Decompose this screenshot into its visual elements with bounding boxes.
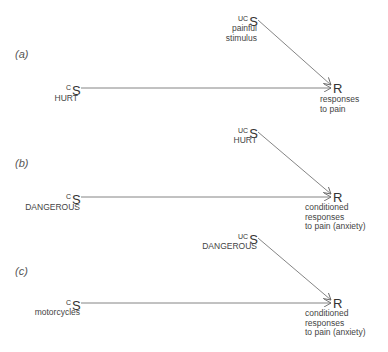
panel-label-a: (a) xyxy=(15,48,28,60)
ucs-caption-a: painful stimulus xyxy=(226,24,257,43)
ucs-prefix: UC xyxy=(238,233,248,240)
cs-prefix: C xyxy=(66,193,71,200)
ucs-caption-line: stimulus xyxy=(226,34,257,44)
panel-label-b: (b) xyxy=(15,157,28,169)
cs-caption-c: motorcycles xyxy=(35,308,80,318)
ucs-to-r-arrow-c xyxy=(258,238,331,300)
cs-prefix: C xyxy=(66,84,71,91)
response-caption-c: conditioned responses to pain (anxiety) xyxy=(305,309,365,338)
ucs-caption-line: HURT xyxy=(234,136,257,146)
panel-label-c: (c) xyxy=(15,265,28,277)
ucs-prefix: UC xyxy=(238,15,248,22)
cs-caption-a: HURT xyxy=(55,94,78,104)
response-caption-a: responses to pain xyxy=(320,95,359,114)
cs-caption-b: DANGEROUS xyxy=(25,203,80,213)
ucs-caption-c: DANGEROUS xyxy=(202,242,257,252)
response-caption-line: to pain xyxy=(320,105,359,115)
response-caption-line: to pain (anxiety) xyxy=(305,328,365,338)
ucs-to-r-arrow-b xyxy=(258,132,331,194)
ucs-caption-line: DANGEROUS xyxy=(202,242,257,252)
ucs-to-r-arrow-a xyxy=(258,20,331,85)
ucs-caption-b: HURT xyxy=(234,136,257,146)
ucs-prefix: UC xyxy=(238,127,248,134)
cs-prefix: C xyxy=(66,299,71,306)
response-caption-b: conditioned responses to pain (anxiety) xyxy=(305,203,365,232)
arrows-layer xyxy=(0,0,388,352)
response-caption-line: to pain (anxiety) xyxy=(305,222,365,232)
